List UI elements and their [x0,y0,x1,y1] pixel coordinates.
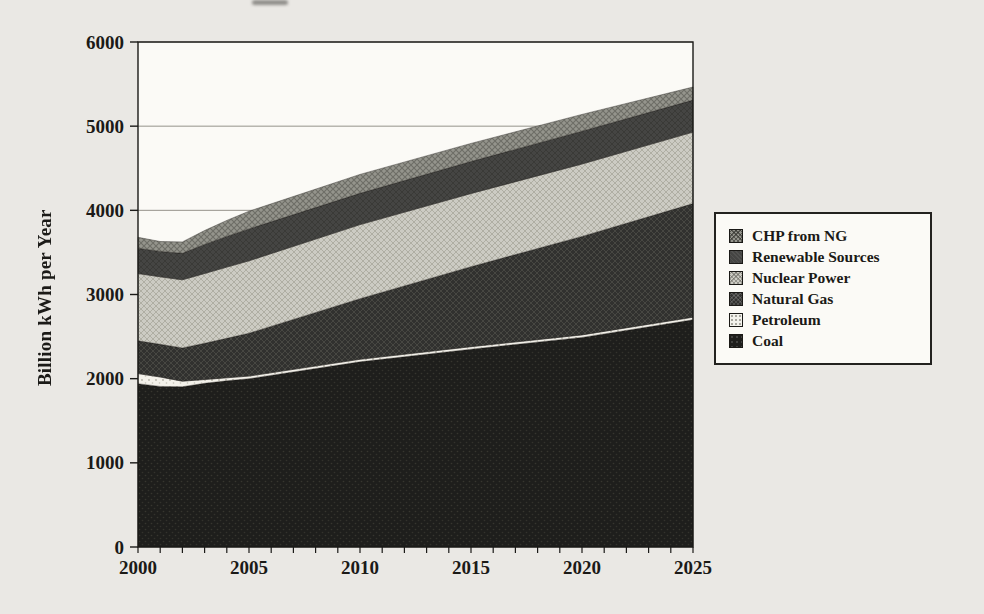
petroleum-swatch-icon [729,313,743,327]
scanned-chart-page: 0100020003000400050006000200020052010201… [0,0,984,614]
legend-label-nuclear-power: Nuclear Power [752,269,850,287]
y-tick-label-3000: 3000 [86,284,124,305]
y-tick-label-0: 0 [115,537,125,558]
legend-item-natural-gas: Natural Gas [729,290,924,308]
legend-label-renewable-sources: Renewable Sources [752,248,880,266]
legend-item-nuclear-power: Nuclear Power [729,269,924,287]
legend-box: CHP from NGRenewable SourcesNuclear Powe… [714,212,932,365]
coal-swatch-icon [729,334,743,348]
legend-label-chp-from-ng: CHP from NG [752,227,847,245]
chp-from-ng-swatch-icon [729,229,743,243]
y-tick-label-6000: 6000 [86,32,124,53]
x-tick-label-2005: 2005 [230,557,268,578]
legend-item-coal: Coal [729,332,924,350]
y-tick-label-2000: 2000 [86,368,124,389]
legend-item-chp-from-ng: CHP from NG [729,227,924,245]
x-tick-label-2025: 2025 [674,557,712,578]
x-tick-label-2020: 2020 [563,557,601,578]
legend-label-petroleum: Petroleum [752,311,821,329]
legend-label-natural-gas: Natural Gas [752,290,833,308]
renewable-sources-swatch-icon [729,250,743,264]
x-tick-label-2000: 2000 [119,557,157,578]
y-tick-label-1000: 1000 [86,452,124,473]
natural-gas-swatch-icon [729,292,743,306]
legend-item-petroleum: Petroleum [729,311,924,329]
y-tick-label-4000: 4000 [86,200,124,221]
nuclear-power-swatch-icon [729,271,743,285]
x-tick-label-2010: 2010 [341,557,379,578]
y-tick-label-5000: 5000 [86,116,124,137]
legend-label-coal: Coal [752,332,783,350]
x-tick-label-2015: 2015 [452,557,490,578]
legend-item-renewable-sources: Renewable Sources [729,248,924,266]
y-axis-title: Billion kWh per Year [30,168,60,428]
